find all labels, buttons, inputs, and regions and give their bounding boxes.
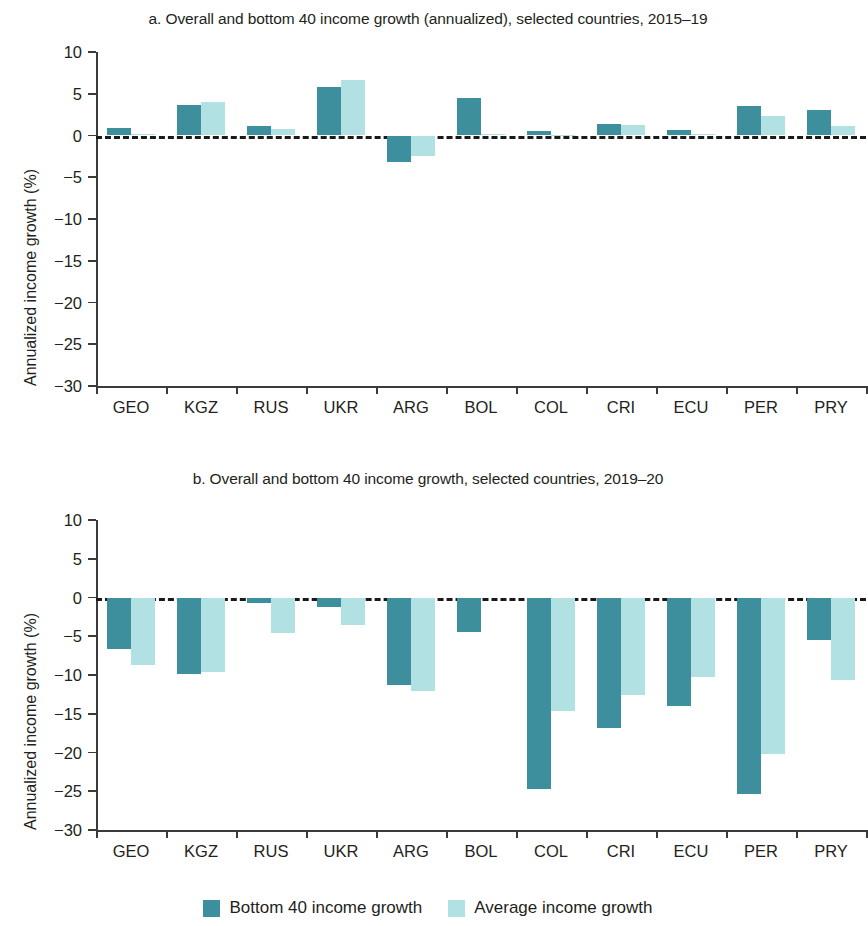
bar-panel-b-cri-bottom-40-income-growth [597, 598, 621, 729]
panel-a-y-tick-mark [88, 260, 96, 262]
panel-a-x-tick-mark [656, 386, 658, 394]
panel-b-x-tick-label-bol: BOL [464, 842, 497, 861]
panel-a-x-tick-mark [166, 386, 168, 394]
panel-a-x-tick-label-rus: RUS [254, 398, 289, 417]
bar-panel-a-kgz-average-income-growth [201, 102, 225, 135]
panel-a-y-axis-line [96, 52, 98, 386]
panel-a-y-tick-mark [88, 343, 96, 345]
panel-b-y-tick-mark [88, 558, 96, 560]
bar-panel-b-bol-bottom-40-income-growth [457, 598, 481, 632]
bar-panel-a-pry-bottom-40-income-growth [807, 110, 831, 135]
panel-a-zero-line [96, 136, 866, 139]
legend-label-average: Average income growth [474, 898, 652, 918]
bar-panel-b-arg-bottom-40-income-growth [387, 598, 411, 686]
panel-a-y-tick-label: −10 [54, 210, 82, 229]
bar-panel-b-ukr-average-income-growth [341, 598, 365, 626]
bar-panel-b-geo-bottom-40-income-growth [107, 598, 131, 649]
panel-b-x-tick-mark [166, 830, 168, 838]
bar-panel-b-rus-average-income-growth [271, 598, 295, 634]
panel-a-y-tick-label: 5 [73, 84, 82, 103]
panel-b-y-tick-label: −15 [54, 704, 82, 723]
panel-b-x-tick-mark [866, 830, 868, 838]
panel-b-x-tick-label-col: COL [534, 842, 568, 861]
panel-a-x-tick-mark [96, 386, 98, 394]
panel-a-x-tick-mark [796, 386, 798, 394]
panel-a-y-tick-label: −5 [63, 168, 82, 187]
panel-a-y-tick-mark [88, 302, 96, 304]
bar-panel-b-pry-bottom-40-income-growth [807, 598, 831, 641]
panel-a-y-tick-label: 10 [64, 43, 82, 62]
panel-a-x-tick-mark [866, 386, 868, 394]
panel-a-x-tick-label-kgz: KGZ [184, 398, 218, 417]
bar-panel-b-arg-average-income-growth [411, 598, 435, 692]
panel-b-y-tick-mark [88, 597, 96, 599]
panel-b-y-axis-line [96, 520, 98, 830]
panel-b-y-tick-label: −20 [54, 743, 82, 762]
bar-panel-a-kgz-bottom-40-income-growth [177, 105, 201, 136]
legend-swatch-bottom40-icon [203, 900, 220, 917]
panel-a-x-tick-label-ukr: UKR [324, 398, 359, 417]
bar-panel-b-col-bottom-40-income-growth [527, 598, 551, 789]
bar-panel-b-per-average-income-growth [761, 598, 785, 755]
bar-panel-b-per-bottom-40-income-growth [737, 598, 761, 795]
panel-b-y-tick-mark [88, 790, 96, 792]
bar-panel-b-pry-average-income-growth [831, 598, 855, 680]
panel-a-y-tick-mark [88, 218, 96, 220]
legend-item-average: Average income growth [448, 898, 652, 918]
panel-b-x-tick-mark [726, 830, 728, 838]
panel-b-y-tick-label: 0 [73, 588, 82, 607]
panel-b-y-tick-mark [88, 635, 96, 637]
panel-a-y-tick-mark [88, 93, 96, 95]
panel-a-x-tick-label-geo: GEO [113, 398, 150, 417]
bar-panel-a-ukr-average-income-growth [341, 80, 365, 135]
panel-b-x-tick-label-pry: PRY [814, 842, 848, 861]
panel-b-x-tick-mark [96, 830, 98, 838]
bar-panel-a-cri-average-income-growth [621, 125, 645, 136]
panel-a-x-axis-line [96, 386, 866, 388]
panel-b-x-tick-label-cri: CRI [607, 842, 635, 861]
panel-b-x-tick-label-arg: ARG [393, 842, 429, 861]
panel-a-title: a. Overall and bottom 40 income growth (… [0, 10, 856, 28]
panel-a-plot: Annualized income growth (%) 1050−5−10−1… [0, 28, 856, 448]
panel-a-y-tick-label: −30 [54, 377, 82, 396]
bar-panel-b-rus-bottom-40-income-growth [247, 598, 271, 603]
panel-a-x-tick-mark [586, 386, 588, 394]
panel-a-x-tick-label-per: PER [744, 398, 778, 417]
panel-a-x-tick-label-arg: ARG [393, 398, 429, 417]
bar-panel-a-per-average-income-growth [761, 116, 785, 135]
bar-panel-b-ecu-bottom-40-income-growth [667, 598, 691, 707]
panel-a-y-tick-mark [88, 385, 96, 387]
bar-panel-b-ukr-bottom-40-income-growth [317, 598, 341, 607]
bar-panel-a-geo-bottom-40-income-growth [107, 128, 131, 136]
panel-a-y-tick-mark [88, 51, 96, 53]
bar-panel-a-per-bottom-40-income-growth [737, 106, 761, 135]
bar-panel-a-bol-average-income-growth [481, 134, 505, 136]
panel-a-x-tick-label-col: COL [534, 398, 568, 417]
chart-legend: Bottom 40 income growthAverage income gr… [0, 898, 856, 918]
panel-b-x-tick-label-ecu: ECU [674, 842, 709, 861]
panel-b-x-tick-label-geo: GEO [113, 842, 150, 861]
panel-b-x-axis-line [96, 830, 866, 832]
panel-b-y-tick-label: −5 [63, 627, 82, 646]
panel-a-x-tick-mark [446, 386, 448, 394]
bar-panel-b-kgz-average-income-growth [201, 598, 225, 672]
panel-a-x-tick-mark [376, 386, 378, 394]
bar-panel-b-ecu-average-income-growth [691, 598, 715, 677]
legend-swatch-average-icon [448, 900, 465, 917]
bar-panel-a-rus-bottom-40-income-growth [247, 126, 271, 135]
bar-panel-a-bol-bottom-40-income-growth [457, 98, 481, 136]
panel-a: a. Overall and bottom 40 income growth (… [0, 10, 856, 448]
panel-b-x-tick-label-kgz: KGZ [184, 842, 218, 861]
panel-b-x-tick-mark [656, 830, 658, 838]
bar-panel-a-arg-bottom-40-income-growth [387, 136, 411, 163]
bar-panel-a-arg-average-income-growth [411, 136, 435, 156]
panel-b-x-tick-mark [306, 830, 308, 838]
bar-panel-b-kgz-bottom-40-income-growth [177, 598, 201, 675]
panel-a-x-tick-mark [306, 386, 308, 394]
bar-panel-b-col-average-income-growth [551, 598, 575, 712]
panel-b-y-tick-mark [88, 519, 96, 521]
panel-b-y-tick-mark [88, 713, 96, 715]
bar-panel-a-ecu-bottom-40-income-growth [667, 130, 691, 135]
panel-b-x-tick-mark [236, 830, 238, 838]
